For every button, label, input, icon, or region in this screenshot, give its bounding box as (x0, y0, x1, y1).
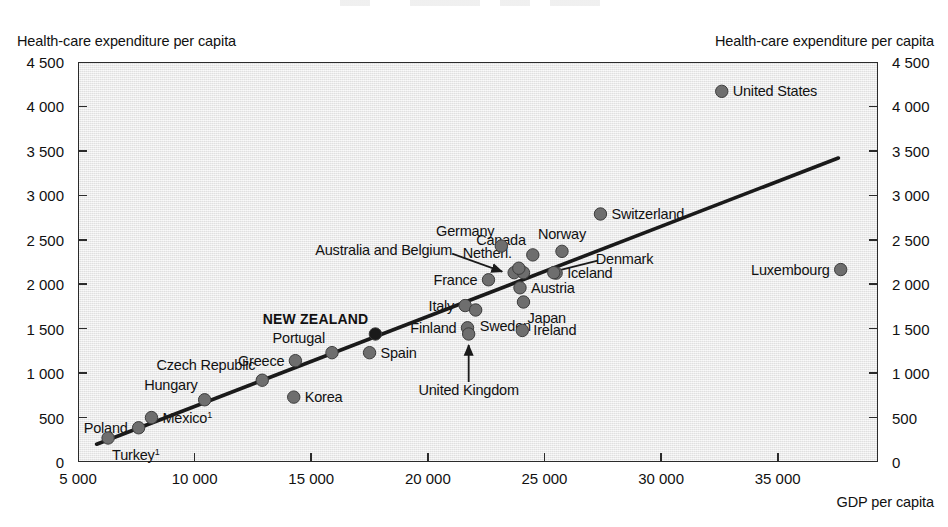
y-tick-mark-left-1500 (78, 328, 87, 330)
x-tick-mark-10000 (194, 453, 196, 462)
y-tick-mark-right-3000 (869, 195, 878, 197)
x-tick-label-10000: 10 000 (172, 470, 218, 487)
point-label-austria: Austria (531, 280, 575, 296)
y-tick-mark-left-3500 (78, 150, 87, 152)
y-tick-label-left-0: 0 (56, 454, 64, 471)
x-tick-label-15000: 15 000 (288, 470, 334, 487)
y-tick-label-right-4500: 4 500 (892, 54, 930, 71)
point-label-denmark: Denmark (596, 251, 653, 267)
point-label-norway: Norway (538, 226, 586, 242)
y-tick-label-left-500: 500 (39, 409, 64, 426)
y-tick-mark-right-3500 (869, 150, 878, 152)
point-label-united-states: United States (733, 83, 817, 99)
y-tick-mark-right-2000 (869, 283, 878, 285)
x-tick-label-20000: 20 000 (405, 470, 451, 487)
y-tick-label-left-2500: 2 500 (26, 231, 64, 248)
y-tick-label-left-1000: 1 000 (26, 365, 64, 382)
footnote-marker-turkey: 1 (155, 447, 160, 457)
point-label-ireland: Ireland (533, 322, 576, 338)
point-label-mexico: Mexico1 (162, 409, 212, 426)
point-label-italy: Italy (429, 298, 455, 314)
point-label-united-kingdom: United Kingdom (418, 382, 518, 398)
scatter-chart: Health-care expenditure per capita Healt… (0, 0, 948, 527)
x-tick-label-35000: 35 000 (755, 470, 801, 487)
y-tick-mark-right-2500 (869, 239, 878, 241)
point-label-iceland: Iceland (567, 265, 612, 281)
y-tick-label-left-1500: 1 500 (26, 320, 64, 337)
y-tick-mark-left-2000 (78, 283, 87, 285)
x-tick-label-30000: 30 000 (638, 470, 684, 487)
y-tick-label-right-3000: 3 000 (892, 187, 930, 204)
y-tick-mark-left-3000 (78, 195, 87, 197)
y-tick-label-right-2500: 2 500 (892, 231, 930, 248)
y-tick-label-left-4000: 4 000 (26, 98, 64, 115)
y-tick-mark-right-4000 (869, 106, 878, 108)
y-tick-label-right-0: 0 (892, 454, 900, 471)
point-label-sweden: Sweden (480, 318, 531, 334)
x-tick-label-5000: 5 000 (59, 470, 97, 487)
y-tick-label-right-2000: 2 000 (892, 276, 930, 293)
y-tick-label-right-4000: 4 000 (892, 98, 930, 115)
point-label-france: France (434, 272, 478, 288)
point-label-australia: Australia and Belgium (315, 242, 452, 258)
point-label-luxembourg: Luxembourg (751, 262, 830, 278)
point-label-greece: Greece (238, 353, 284, 369)
x-tick-mark-20000 (427, 453, 429, 462)
footnote-marker-mexico: 1 (207, 409, 212, 419)
y-tick-mark-left-500 (78, 417, 87, 419)
y-tick-mark-right-1000 (869, 372, 878, 374)
y-tick-mark-left-2500 (78, 239, 87, 241)
point-label-canada: Canada (476, 232, 526, 248)
y-tick-label-left-2000: 2 000 (26, 276, 64, 293)
point-label-poland: Poland (84, 420, 128, 436)
point-label-spain: Spain (381, 345, 417, 361)
y-tick-label-right-1500: 1 500 (892, 320, 930, 337)
y-tick-label-left-3500: 3 500 (26, 142, 64, 159)
x-tick-mark-30000 (660, 453, 662, 462)
point-label-new-zealand: NEW ZEALAND (263, 311, 369, 327)
cropped-title-remnant (300, 0, 650, 6)
y-tick-mark-left-4000 (78, 106, 87, 108)
y-tick-label-right-3500: 3 500 (892, 142, 930, 159)
y-axis-title-left: Health-care expenditure per capita (17, 33, 236, 49)
point-label-finland: Finland (410, 320, 456, 336)
y-tick-label-left-3000: 3 000 (26, 187, 64, 204)
point-label-portugal: Portugal (273, 330, 325, 346)
x-tick-mark-15000 (310, 453, 312, 462)
point-label-turkey: Turkey1 (112, 447, 159, 464)
y-tick-label-left-4500: 4 500 (26, 54, 64, 71)
x-axis-title: GDP per capita (837, 494, 934, 510)
y-tick-mark-right-500 (869, 417, 878, 419)
y-tick-label-right-1000: 1 000 (892, 365, 930, 382)
y-tick-label-right-500: 500 (892, 409, 917, 426)
y-axis-title-right: Health-care expenditure per capita (715, 33, 934, 49)
x-tick-label-25000: 25 000 (522, 470, 568, 487)
x-tick-mark-35000 (777, 453, 779, 462)
x-tick-mark-25000 (544, 453, 546, 462)
point-label-korea: Korea (305, 389, 343, 405)
y-tick-mark-left-1000 (78, 372, 87, 374)
point-label-switzerland: Switzerland (611, 206, 684, 222)
y-tick-mark-right-1500 (869, 328, 878, 330)
point-label-hungary: Hungary (144, 377, 197, 393)
